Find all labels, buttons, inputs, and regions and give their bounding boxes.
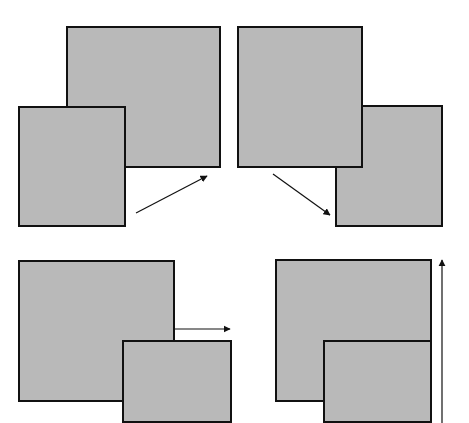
arrows-layer <box>0 0 469 423</box>
top-left-arrow-up-right-icon <box>136 176 207 213</box>
top-right-arrow-down-right-icon <box>273 174 330 215</box>
